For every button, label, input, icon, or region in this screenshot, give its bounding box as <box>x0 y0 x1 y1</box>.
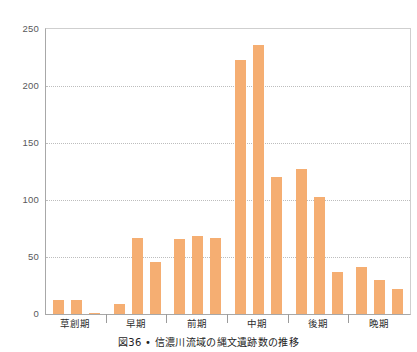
bar <box>356 267 367 314</box>
bar <box>210 238 221 314</box>
x-tick-label-2: 前期 <box>166 316 227 330</box>
bar <box>132 238 143 314</box>
bar <box>71 300 82 314</box>
y-tick-label-50: 50 <box>0 251 39 262</box>
y-tick-label-100: 100 <box>0 194 39 205</box>
bar <box>374 280 385 314</box>
plot-area <box>45 28 411 315</box>
figure-chart-jomon-sites: 050100150200250 草創期早期前期中期後期晩期 図36 • 信濃川流… <box>0 0 417 352</box>
y-tick-label-0: 0 <box>0 308 39 319</box>
y-tick-label-250: 250 <box>0 23 39 34</box>
x-tick-label-0: 草創期 <box>45 316 106 330</box>
y-tick-label-200: 200 <box>0 80 39 91</box>
bar <box>114 304 125 314</box>
x-tick-label-1: 早期 <box>106 316 167 330</box>
bar <box>192 236 203 314</box>
bar <box>314 197 325 314</box>
x-axis-category-labels: 草創期早期前期中期後期晩期 <box>45 316 409 334</box>
bar-series <box>46 29 410 314</box>
figure-caption: 図36 • 信濃川流域の縄文遺跡数の推移 <box>0 334 417 349</box>
bar <box>150 262 161 314</box>
bar <box>332 272 343 314</box>
bar <box>235 60 246 314</box>
bar <box>296 169 307 314</box>
bar <box>174 239 185 314</box>
bar <box>392 289 403 314</box>
y-tick-label-150: 150 <box>0 137 39 148</box>
x-tick-label-4: 後期 <box>288 316 349 330</box>
x-tick-label-5: 晩期 <box>348 316 409 330</box>
bar <box>89 313 100 314</box>
bar <box>271 177 282 314</box>
bar <box>253 45 264 314</box>
bar <box>53 300 64 314</box>
y-axis-labels: 050100150200250 <box>0 28 39 313</box>
x-tick-label-3: 中期 <box>227 316 288 330</box>
